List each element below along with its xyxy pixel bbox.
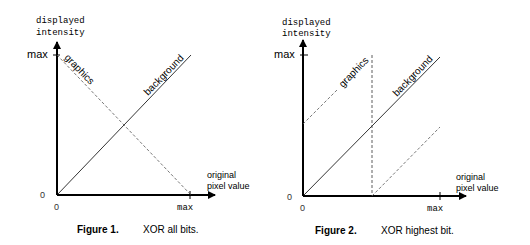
x-max-label: max — [177, 203, 193, 213]
x-axis-label-line2: pixel value — [207, 181, 250, 191]
caption-number: Figure 1. — [77, 224, 119, 235]
background-label: background — [142, 52, 186, 97]
x-zero-label: 0 — [300, 203, 305, 213]
graphics-label: graphics — [337, 55, 371, 90]
background-line — [303, 57, 440, 196]
x-max-label: max — [427, 204, 443, 214]
x-zero-label: 0 — [54, 202, 59, 212]
x-axis-label-line1: original — [456, 172, 485, 182]
caption-number: Figure 2. — [315, 225, 357, 236]
y-axis-label-line1: displayed — [36, 16, 85, 26]
x-axis-label-line2: pixel value — [456, 183, 499, 193]
graphics-label: graphics — [63, 52, 97, 87]
background-label: background — [391, 53, 435, 98]
y-axis-label-line2: intensity — [282, 29, 331, 39]
y-axis-label-line2: intensity — [36, 28, 85, 38]
y-zero-label: 0 — [40, 190, 45, 200]
x-axis-label-line1: original — [207, 170, 236, 180]
y-max-label: max — [27, 48, 48, 60]
caption-text: XOR all bits. — [143, 224, 199, 235]
caption-text: XOR highest bit. — [381, 225, 454, 236]
figure-2: displayed intensity max 0 0 max original… — [274, 18, 499, 236]
figure-1: displayed intensity max 0 0 max original… — [27, 16, 250, 235]
y-zero-label: 0 — [287, 192, 292, 202]
y-max-label: max — [274, 48, 295, 60]
y-axis-label-line1: displayed — [282, 18, 331, 28]
